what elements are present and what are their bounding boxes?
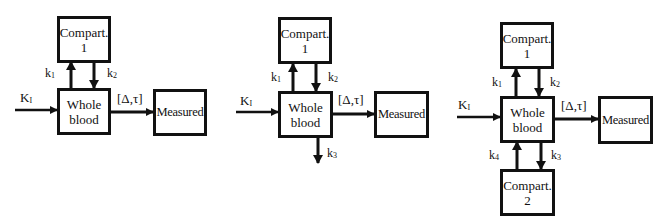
k2-label: k2 — [328, 71, 338, 85]
compartment-1-box: Compart. 1 — [500, 22, 554, 69]
compartment-number: 2 — [503, 193, 552, 208]
whole-blood-line1: Whole — [510, 105, 545, 120]
compartment-model-figure: Compart. 1 Whole blood Measured KI k1 k2… — [0, 0, 663, 224]
compartment-label: Compart. — [281, 26, 330, 41]
compartment-number: 1 — [60, 40, 109, 55]
k3-label: k3 — [551, 149, 561, 163]
k1-label: k1 — [492, 76, 502, 90]
compartment-number: 1 — [281, 41, 330, 56]
compartment-1-box: Compart. 1 — [57, 16, 111, 63]
k1-label: k1 — [45, 67, 55, 81]
whole-blood-line2: blood — [288, 115, 323, 130]
compartment-2-box: Compart. 2 — [500, 169, 555, 216]
measured-box: Measured — [153, 89, 207, 136]
k3-label: k3 — [327, 147, 337, 161]
compartment-number: 1 — [503, 46, 552, 61]
measured-label: Measured — [157, 105, 204, 120]
delay-label: [Δ,τ] — [117, 92, 143, 105]
whole-blood-line1: Whole — [67, 97, 102, 112]
k1-label: k1 — [271, 71, 281, 85]
whole-blood-box: Whole blood — [500, 96, 555, 143]
measured-box: Measured — [374, 91, 429, 138]
whole-blood-line2: blood — [510, 120, 545, 135]
compartment-1-box: Compart. 1 — [278, 17, 332, 64]
delay-label: [Δ,τ] — [338, 93, 364, 106]
k2-label: k2 — [550, 76, 560, 90]
compartment-label: Compart. — [503, 178, 552, 193]
delay-label: [Δ,τ] — [561, 99, 587, 112]
input-rate-label: KI — [20, 91, 32, 106]
input-rate-label: KI — [240, 94, 252, 109]
compartment-label: Compart. — [60, 25, 109, 40]
measured-label: Measured — [378, 107, 425, 122]
compartment-label: Compart. — [503, 31, 552, 46]
measured-box: Measured — [598, 96, 653, 144]
whole-blood-box: Whole blood — [278, 91, 333, 138]
measured-label: Measured — [602, 113, 649, 128]
whole-blood-box: Whole blood — [57, 88, 111, 135]
input-rate-label: KI — [458, 98, 470, 113]
whole-blood-line2: blood — [67, 112, 102, 127]
k2-label: k2 — [107, 67, 117, 81]
k4-label: k4 — [489, 149, 499, 163]
whole-blood-line1: Whole — [288, 100, 323, 115]
